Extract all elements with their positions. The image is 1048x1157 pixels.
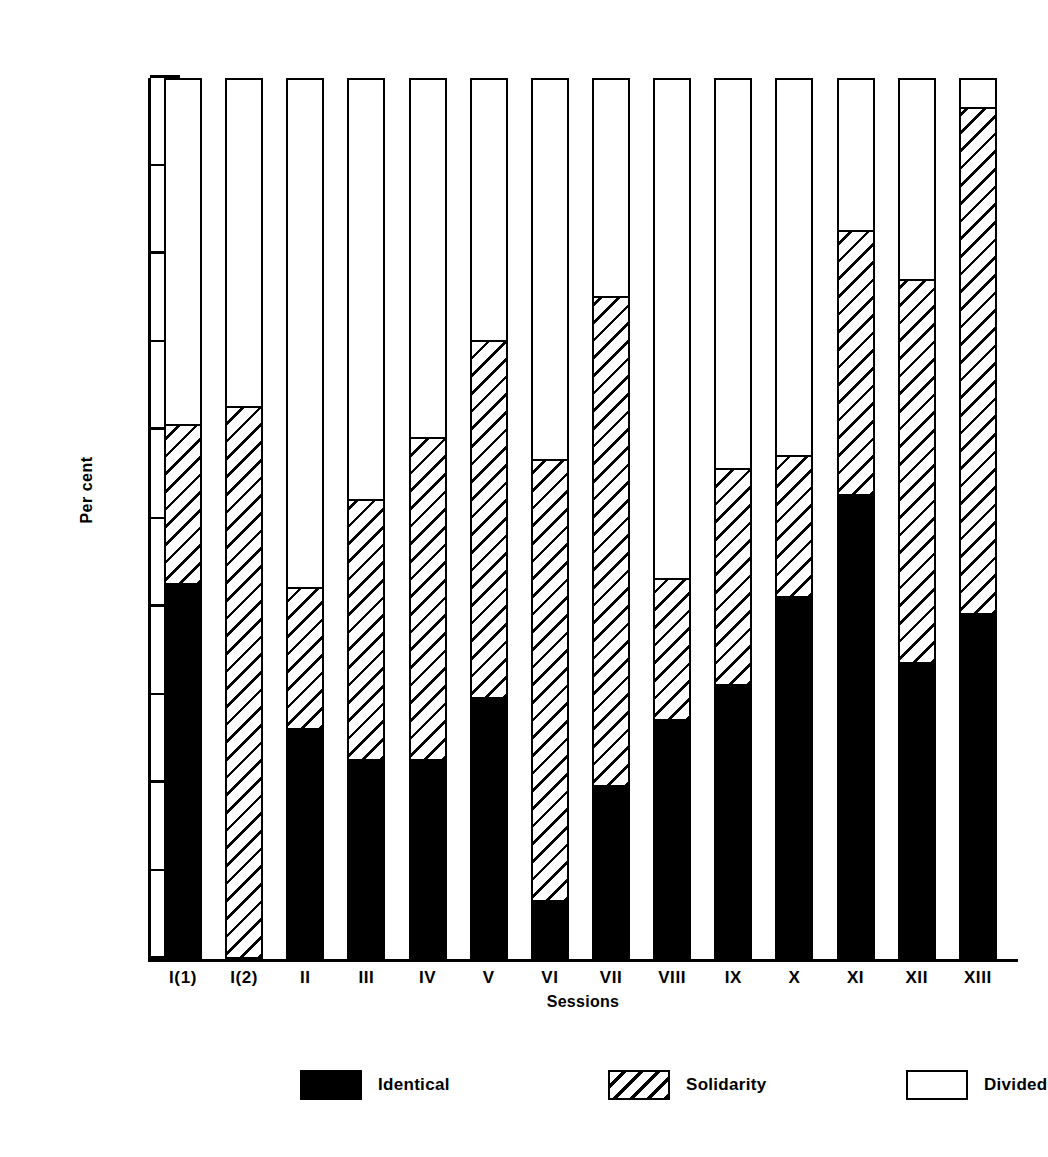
segment-solidarity: [716, 468, 750, 684]
bar-XIII: [959, 78, 997, 959]
legend-swatch-solidarity: [608, 1070, 670, 1100]
segment-identical: [349, 759, 383, 957]
bar-XI: [837, 78, 875, 959]
bar-IX: [714, 78, 752, 959]
segment-identical: [594, 785, 628, 957]
segment-solidarity: [533, 459, 567, 900]
bar-VIII: [653, 78, 691, 959]
bar-I(2): [225, 78, 263, 959]
x-tick-label-XIII: XIII: [933, 968, 1023, 988]
legend-swatch-divided: [906, 1070, 968, 1100]
segment-solidarity: [594, 296, 628, 785]
bar-I(1): [164, 78, 202, 959]
segment-identical: [716, 684, 750, 957]
segment-solidarity: [349, 499, 383, 759]
bar-III: [347, 78, 385, 959]
bar-VII: [592, 78, 630, 959]
x-axis-label: Sessions: [148, 993, 1018, 1011]
chart-legend: IdenticalSolidarityDivided: [148, 1068, 1020, 1102]
segment-solidarity: [166, 424, 200, 583]
legend-item-solidarity: Solidarity: [608, 1070, 766, 1100]
bar-XII: [898, 78, 936, 959]
legend-label-divided: Divided: [984, 1075, 1048, 1095]
bar-II: [286, 78, 324, 959]
segment-solidarity: [227, 406, 261, 957]
legend-swatch-identical: [300, 1070, 362, 1100]
segment-solidarity: [777, 455, 811, 596]
segment-identical: [839, 494, 873, 957]
segment-solidarity: [961, 107, 995, 614]
bar-group: [148, 78, 1018, 959]
legend-item-identical: Identical: [300, 1070, 450, 1100]
segment-identical: [411, 759, 445, 957]
legend-label-identical: Identical: [378, 1075, 450, 1095]
plot-area: 020406080100 I(1)I(2)IIIIIIVVVIVIIVIIIIX…: [148, 78, 1018, 959]
bar-IV: [409, 78, 447, 959]
segment-solidarity: [655, 578, 689, 719]
bar-V: [470, 78, 508, 959]
segment-solidarity: [411, 437, 445, 759]
segment-identical: [961, 613, 995, 957]
bar-VI: [531, 78, 569, 959]
y-axis-label: Per cent: [78, 420, 96, 560]
segment-solidarity: [472, 340, 506, 697]
x-axis-spine: [148, 959, 1018, 962]
legend-label-solidarity: Solidarity: [686, 1075, 766, 1095]
legend-item-divided: Divided: [906, 1070, 1048, 1100]
segment-solidarity: [288, 587, 322, 728]
segment-identical: [472, 697, 506, 957]
segment-identical: [166, 583, 200, 957]
segment-solidarity: [839, 230, 873, 494]
segment-identical: [655, 719, 689, 957]
segment-identical: [533, 900, 567, 957]
segment-identical: [900, 662, 934, 957]
bar-X: [775, 78, 813, 959]
segment-identical: [288, 728, 322, 957]
segment-identical: [777, 596, 811, 957]
segment-solidarity: [900, 279, 934, 662]
